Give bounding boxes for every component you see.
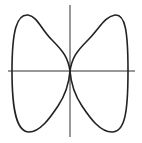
polar-curve-plot — [0, 0, 142, 143]
right-lobe-curve — [70, 15, 128, 132]
left-lobe-curve — [12, 15, 70, 132]
